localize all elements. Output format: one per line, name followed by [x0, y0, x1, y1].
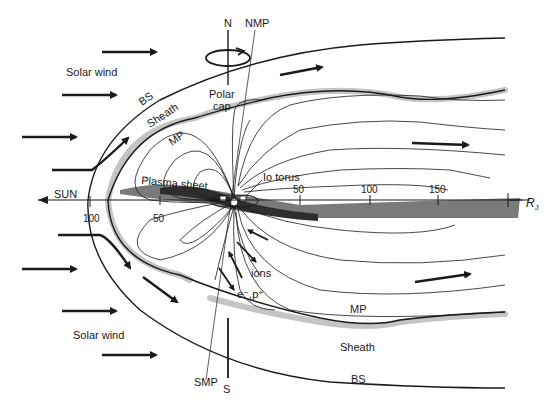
label-nmp: NMP — [245, 17, 269, 29]
label-ions: ions — [251, 267, 272, 279]
label-sun: SUN — [54, 188, 77, 200]
field-line — [215, 206, 234, 280]
ion-arrow — [237, 242, 256, 262]
sun-arrow-icon — [38, 196, 48, 204]
tick-label-50-sun: 50 — [153, 213, 165, 224]
sheath-flow-arrow — [412, 143, 468, 145]
label-south: S — [223, 383, 230, 395]
ion-arrow — [248, 230, 268, 240]
label-mp-top: MP — [166, 128, 186, 147]
label-electrons-protons: e⁻,p⁺ — [237, 288, 264, 300]
field-line — [137, 200, 234, 260]
sheath-flow-arrow — [415, 274, 470, 282]
field-line — [244, 185, 448, 192]
label-bs-bottom: BS — [351, 373, 366, 385]
tick-label-150-tail: 150 — [429, 184, 446, 195]
axis-unit-subscript: J — [535, 203, 539, 212]
label-io-torus: Io torus — [263, 171, 300, 183]
tick-label-100-tail: 100 — [361, 184, 378, 195]
label-polar-cap-2: cap — [213, 100, 231, 112]
axis-unit-label: RJ — [526, 196, 539, 212]
ion-arrow — [229, 252, 242, 278]
tick-label-50-tail: 50 — [293, 184, 305, 195]
label-polar-cap-1: Polar — [209, 88, 235, 100]
axis-unit: R — [526, 196, 535, 210]
label-mp-bottom: MP — [350, 303, 367, 315]
field-line — [232, 100, 262, 198]
label-sheath-bottom: Sheath — [340, 341, 375, 353]
label-solar-wind-top: Solar wind — [66, 66, 117, 78]
field-line — [236, 212, 505, 317]
tick-label-100-sun: 100 — [83, 213, 100, 224]
label-smp: SMP — [194, 376, 218, 388]
electron-arrow — [219, 268, 234, 290]
label-north: N — [224, 17, 232, 29]
sheath-flow-arrow — [280, 67, 322, 75]
field-line — [238, 210, 505, 294]
magnetopause-shade-top — [195, 90, 505, 118]
deflected-flow-arrow — [143, 277, 177, 302]
magnetosphere-diagram: N NMP Polar cap Solar wind Solar wind BS… — [0, 0, 553, 413]
label-solar-wind-bottom: Solar wind — [73, 329, 124, 341]
